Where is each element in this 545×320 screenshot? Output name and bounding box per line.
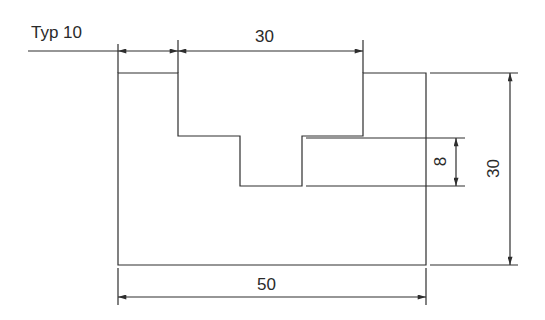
label-right-height: 30 [485, 159, 502, 178]
label-top-width: 30 [255, 28, 274, 45]
label-slot-depth: 8 [432, 157, 449, 166]
part-outline [118, 73, 426, 265]
technical-drawing [0, 0, 545, 320]
label-typ-10: Typ 10 [31, 24, 82, 41]
label-bottom-width: 50 [257, 276, 276, 293]
